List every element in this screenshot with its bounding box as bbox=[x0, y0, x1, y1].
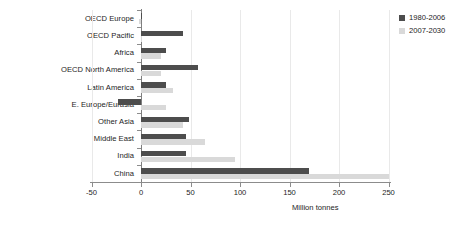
y-tick-mark bbox=[137, 148, 141, 149]
bar-1980-2006-india bbox=[141, 151, 186, 156]
y-tick-mark bbox=[137, 10, 141, 11]
gridline-250 bbox=[389, 10, 390, 182]
x-axis-title: Million tonnes bbox=[292, 203, 338, 212]
x-tick-mark-50 bbox=[191, 182, 192, 187]
x-tick-label-100: 100 bbox=[220, 188, 260, 197]
y-tick-mark bbox=[137, 27, 141, 28]
gridline-200 bbox=[339, 10, 340, 182]
x-tick-mark-200 bbox=[339, 182, 340, 187]
x-tick-label-200: 200 bbox=[319, 188, 359, 197]
bar-2007-2030-india bbox=[141, 157, 235, 162]
bar-2007-2030-oecd-europe bbox=[139, 19, 141, 24]
y-tick-mark bbox=[137, 182, 141, 183]
y-tick-mark bbox=[137, 165, 141, 166]
bar-2007-2030-middle-east bbox=[141, 139, 205, 144]
bar-chart-figure: OECD EuropeOECD PacificAfricaOECD North … bbox=[0, 0, 469, 233]
x-tick-mark-250 bbox=[389, 182, 390, 187]
bar-1980-2006-africa bbox=[141, 48, 166, 53]
gridline--50 bbox=[92, 10, 93, 182]
bar-1980-2006-other-asia bbox=[141, 117, 189, 122]
bar-1980-2006-latin-america bbox=[141, 82, 166, 87]
x-tick-mark-0 bbox=[141, 182, 142, 187]
y-tick-mark bbox=[137, 44, 141, 45]
x-tick-label-150: 150 bbox=[270, 188, 310, 197]
y-tick-mark bbox=[137, 79, 141, 80]
x-tick-mark-100 bbox=[240, 182, 241, 187]
x-tick-label-0: 0 bbox=[121, 188, 161, 197]
bar-1980-2006-oecd-europe bbox=[141, 13, 142, 18]
x-tick-label-50: 50 bbox=[171, 188, 211, 197]
y-tick-mark bbox=[137, 96, 141, 97]
legend-entry-1980-2006[interactable]: 1980-2006 bbox=[399, 12, 469, 25]
bar-1980-2006-middle-east bbox=[141, 134, 186, 139]
bar-2007-2030-other-asia bbox=[141, 122, 183, 127]
bar-2007-2030-e-europe-eurasia bbox=[141, 105, 166, 110]
legend-swatch-icon bbox=[399, 15, 405, 21]
x-tick-label-250: 250 bbox=[369, 188, 409, 197]
bar-1980-2006-oecd-pacific bbox=[141, 31, 183, 36]
x-tick-label--50: -50 bbox=[72, 188, 112, 197]
legend-swatch-icon bbox=[399, 28, 405, 34]
bar-1980-2006-china bbox=[141, 168, 309, 173]
y-tick-mark bbox=[137, 130, 141, 131]
bar-2007-2030-oecd-pacific bbox=[141, 36, 142, 41]
gridline-100 bbox=[240, 10, 241, 182]
bar-2007-2030-china bbox=[141, 174, 389, 179]
bar-2007-2030-oecd-north-america bbox=[141, 71, 161, 76]
y-tick-mark bbox=[137, 113, 141, 114]
chart-legend: 1980-20062007-2030 bbox=[399, 12, 469, 38]
y-tick-mark bbox=[137, 62, 141, 63]
bar-2007-2030-latin-america bbox=[141, 88, 173, 93]
bar-2007-2030-africa bbox=[141, 53, 161, 58]
legend-label: 1980-2006 bbox=[409, 12, 445, 23]
plot-background bbox=[90, 10, 387, 182]
bar-1980-2006-e-europe-eurasia bbox=[118, 99, 141, 104]
gridline-150 bbox=[290, 10, 291, 182]
legend-entry-2007-2030[interactable]: 2007-2030 bbox=[399, 25, 469, 38]
x-tick-mark-150 bbox=[290, 182, 291, 187]
legend-label: 2007-2030 bbox=[409, 25, 445, 36]
bar-1980-2006-oecd-north-america bbox=[141, 65, 198, 70]
x-tick-mark--50 bbox=[92, 182, 93, 187]
